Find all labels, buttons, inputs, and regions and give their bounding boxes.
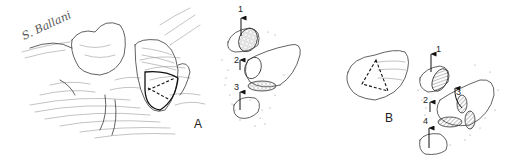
- panel-label-a: A: [194, 117, 202, 131]
- arrow-label-b-3: 3: [456, 87, 461, 97]
- panel-b-tooth: [347, 51, 409, 100]
- panel-b-exploded: [418, 54, 499, 155]
- arrow-label-b-2: 2: [423, 95, 428, 105]
- panel-a-exploded: [222, 18, 301, 127]
- arrow-label-b-1: 1: [436, 44, 441, 54]
- molar-left: [72, 23, 126, 75]
- arrow-label-a-1: 1: [238, 4, 243, 14]
- arrow-label-b-4: 4: [423, 116, 428, 126]
- artist-signature: S. Ballani: [20, 9, 74, 43]
- panel-label-b: B: [385, 111, 393, 125]
- figure-illustration: S. Ballani A 1 2 3: [0, 0, 518, 158]
- arrow-label-a-2: 2: [234, 55, 239, 65]
- arrow-label-a-3: 3: [234, 82, 239, 92]
